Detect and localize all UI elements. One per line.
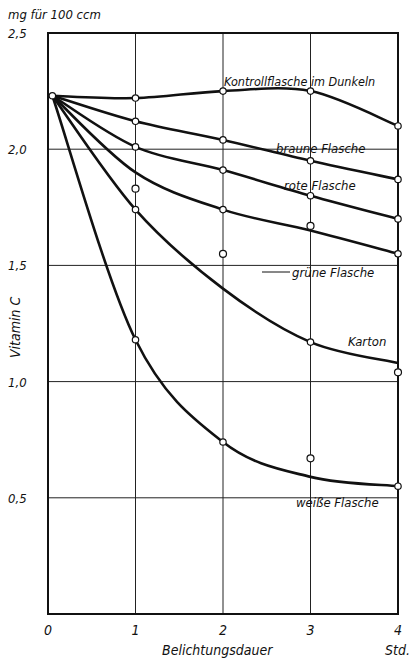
x-tick-label: 3 — [307, 622, 315, 638]
data-point — [132, 95, 138, 101]
data-point — [220, 206, 226, 212]
data-point — [307, 339, 313, 345]
curve-4 — [52, 96, 398, 363]
open-marker — [307, 455, 314, 462]
data-point — [307, 192, 313, 198]
grid-lines — [48, 33, 398, 614]
data-point — [132, 337, 138, 343]
data-point — [395, 216, 401, 222]
unit-label: mg für 100 ccm — [8, 7, 101, 22]
data-point — [220, 167, 226, 173]
series-labels: Kontrollflasche im Dunkelnbraune Flasche… — [224, 74, 386, 510]
y-tick-label: 1,5 — [8, 258, 27, 273]
y-axis-title: Vitamin C — [7, 296, 23, 358]
y-tick-label: 0,5 — [8, 491, 27, 506]
x-tick-label: 4 — [394, 622, 402, 638]
series-label: grüne Flasche — [292, 265, 374, 280]
series-label: Karton — [348, 334, 386, 349]
data-point — [132, 144, 138, 150]
y-tick-label: 2,5 — [8, 26, 27, 41]
data-point — [395, 176, 401, 182]
start-point — [49, 93, 55, 99]
x-axis-unit: Std. — [385, 642, 409, 658]
data-point — [132, 206, 138, 212]
data-point — [220, 137, 226, 143]
series-label: rote Flasche — [284, 178, 356, 193]
x-axis-title: Belichtungsdauer — [162, 642, 273, 658]
series-label: braune Flasche — [276, 141, 365, 156]
open-marker — [395, 369, 402, 376]
data-point — [132, 118, 138, 124]
series-label: weiße Flasche — [296, 495, 379, 510]
vitamin-c-chart: 012340,51,01,52,02,5 Kontrollflasche im … — [0, 0, 409, 665]
x-tick-label: 2 — [219, 622, 227, 638]
open-marker — [307, 222, 314, 229]
data-point — [395, 483, 401, 489]
data-point — [220, 439, 226, 445]
open-marker — [132, 185, 139, 192]
data-point — [395, 251, 401, 257]
data-point — [395, 123, 401, 129]
x-tick-label: 1 — [132, 622, 140, 638]
y-tick-label: 2,0 — [8, 142, 27, 157]
y-tick-label: 1,0 — [8, 375, 27, 390]
open-marker — [220, 250, 227, 257]
x-tick-label: 0 — [44, 622, 52, 638]
data-point — [307, 158, 313, 164]
curve-2 — [52, 96, 398, 219]
curve-3 — [52, 96, 398, 254]
series-label: Kontrollflasche im Dunkeln — [224, 74, 375, 89]
